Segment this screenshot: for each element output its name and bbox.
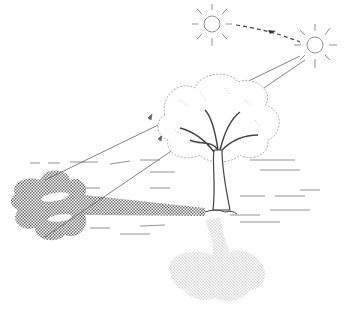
shadow-late-reflection [170,218,266,301]
sun-path-arrow [236,25,300,42]
sun-early [192,4,232,46]
illustration [0,0,345,312]
shadow-early [11,171,205,241]
tree [158,74,279,214]
sun-late [294,24,337,68]
